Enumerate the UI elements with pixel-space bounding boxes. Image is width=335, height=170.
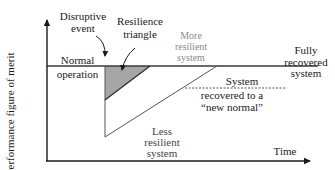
- label-less-resilient-3: system: [138, 148, 186, 159]
- disruptive-event-arrow-icon: [96, 36, 105, 56]
- label-fully-recovered-1: Fully: [278, 45, 334, 56]
- label-resilience-triangle-2: triangle: [112, 29, 168, 40]
- x-axis-label: Time: [265, 146, 305, 157]
- label-normal-operation-2: operation: [50, 69, 105, 80]
- label-new-normal-2: recovered to a: [192, 90, 272, 101]
- y-axis-label: Performance figure of merit: [5, 44, 17, 170]
- label-fully-recovered-3: system: [278, 68, 334, 79]
- label-normal-operation-1: Normal: [50, 55, 105, 66]
- label-new-normal-1: System: [202, 76, 282, 87]
- label-more-resilient-3: system: [168, 52, 214, 63]
- label-resilience-triangle-1: Resilience: [112, 16, 168, 27]
- label-disruptive-event-2: event: [55, 23, 111, 34]
- label-new-normal-3: “new normal”: [192, 102, 272, 113]
- label-more-resilient-2: resilient: [168, 41, 214, 52]
- label-more-resilient-1: More: [168, 30, 214, 41]
- label-disruptive-event-1: Disruptive: [55, 11, 111, 22]
